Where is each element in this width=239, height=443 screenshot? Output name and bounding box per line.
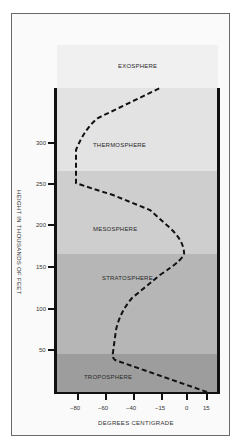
- temperature-curve: [0, 0, 239, 443]
